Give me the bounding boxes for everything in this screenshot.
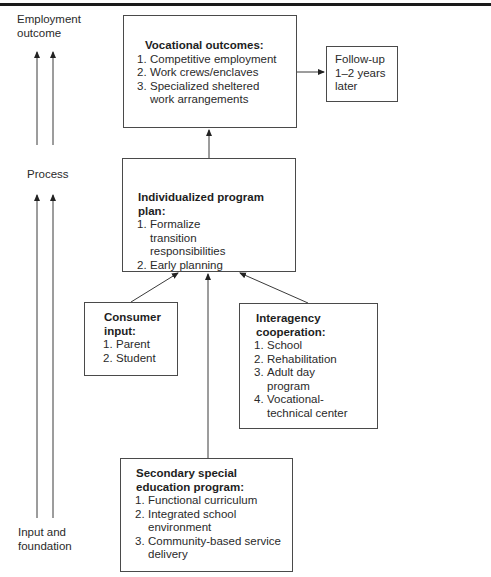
list-item: 1.Parent — [103, 338, 177, 352]
list-item: 2.Student — [103, 352, 177, 366]
list-item: 2.Integrated school environment — [135, 508, 288, 535]
list-item: 4.Vocational-technical center — [254, 393, 373, 420]
label-process: Process — [27, 168, 69, 182]
box-follow-up: Follow-up 1–2 years later — [326, 46, 398, 102]
list-item: 1.Formalize transition responsibilities — [137, 218, 289, 259]
list-item: 1.Functional curriculum — [135, 494, 288, 508]
list-item: 2.Work crews/enclaves — [137, 66, 288, 80]
box-title: Individualized program plan: — [138, 191, 289, 218]
item-list: 1.Competitive employment 2.Work crews/en… — [137, 53, 288, 107]
list-item: 2.Early planning — [137, 259, 289, 273]
box-secondary-special-education: Secondary special education program: 1.F… — [120, 458, 293, 572]
box-title: Vocational outcomes: — [145, 39, 288, 53]
list-item: 3.Specialized sheltered work arrangement… — [137, 80, 288, 107]
box-title: Secondary special education program: — [136, 467, 286, 494]
label-input-foundation: Input and foundation — [18, 526, 72, 553]
label-employment-outcome: Employment outcome — [17, 13, 81, 40]
box-consumer-input: Consumer input: 1.Parent 2.Student — [84, 302, 178, 376]
item-list: 1.Formalize transition responsibilities … — [137, 218, 289, 272]
list-item: 3.Adult day program — [254, 366, 373, 393]
list-item: 3.Community-based service delivery — [135, 535, 288, 562]
left-arrows — [37, 52, 53, 518]
item-list: 1.School 2.Rehabilitation 3.Adult day pr… — [254, 339, 373, 420]
list-item: 1.School — [254, 339, 373, 353]
list-item: 1.Competitive employment — [137, 53, 288, 67]
box-individualized-program-plan: Individualized program plan: 1.Formalize… — [122, 158, 296, 272]
item-list: 1.Functional curriculum 2.Integrated sch… — [135, 494, 288, 562]
box-interagency-cooperation: Interagency cooperation: 1.School 2.Reha… — [239, 303, 378, 429]
arrow-consumer-to-ipp — [131, 273, 178, 302]
box-vocational-outcomes: Vocational outcomes: 1.Competitive emplo… — [123, 15, 297, 128]
list-item: 2.Rehabilitation — [254, 353, 373, 367]
box-title: Consumer input: — [104, 311, 164, 338]
box-title: Interagency cooperation: — [255, 312, 336, 339]
arrow-interagency-to-ipp — [240, 273, 308, 303]
item-list: 1.Parent 2.Student — [103, 338, 177, 365]
